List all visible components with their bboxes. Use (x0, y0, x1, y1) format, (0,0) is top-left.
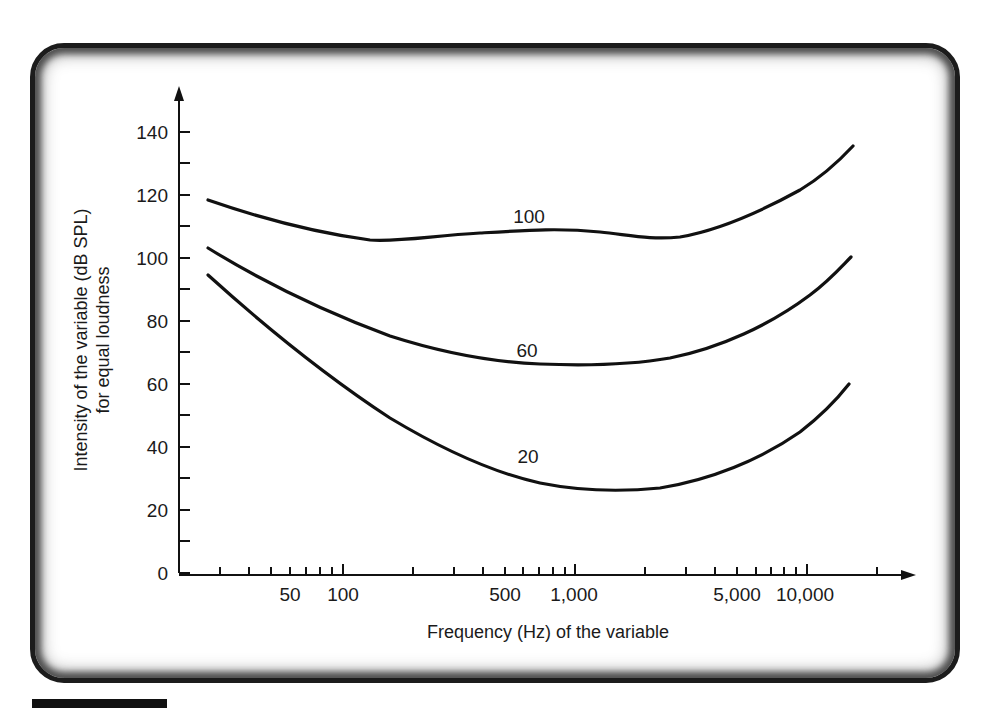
y-tick-120: 120 (136, 185, 168, 206)
x-tick-5000: 5,000 (713, 584, 761, 605)
y-tick-100: 100 (136, 248, 168, 269)
x-axis (179, 564, 916, 580)
x-tick-500: 500 (489, 584, 521, 605)
y-tick-40: 40 (147, 437, 168, 458)
y-tick-60: 60 (147, 374, 168, 395)
y-tick-80: 80 (147, 311, 168, 332)
curve-labels: 100 60 20 (513, 206, 545, 467)
x-tick-10000: 10,000 (776, 584, 834, 605)
curve-label-100: 100 (513, 206, 545, 227)
y-tick-0: 0 (157, 563, 168, 584)
curve-label-60: 60 (516, 340, 537, 361)
curve-label-20: 20 (517, 446, 538, 467)
equal-loudness-chart: 0 20 40 60 80 100 120 140 (0, 0, 990, 714)
y-tick-labels: 0 20 40 60 80 100 120 140 (136, 122, 168, 584)
x-axis-title: Frequency (Hz) of the variable (427, 622, 669, 642)
x-axis-arrow-icon (901, 570, 916, 580)
y-axis-title: Intensity of the variable (dB SPL) for e… (71, 208, 113, 471)
y-axis-arrow-icon (174, 86, 184, 101)
y-axis-title-line2: for equal loudness (93, 266, 113, 413)
curves (208, 146, 853, 490)
x-tick-50: 50 (279, 584, 300, 605)
x-tick-labels: 50 100 500 1,000 5,000 10,000 (279, 584, 834, 605)
y-axis-title-line1: Intensity of the variable (dB SPL) (71, 208, 91, 471)
x-tick-1000: 1,000 (550, 584, 598, 605)
y-tick-20: 20 (147, 500, 168, 521)
y-axis (174, 86, 190, 573)
y-tick-140: 140 (136, 122, 168, 143)
x-tick-100: 100 (327, 584, 359, 605)
